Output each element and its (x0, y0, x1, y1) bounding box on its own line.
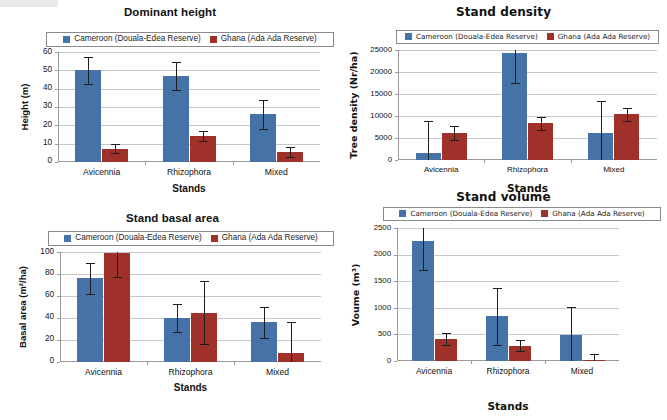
legend-entry-ghana[interactable]: Ghana (Ada Ada Reserve) (541, 210, 644, 217)
error-bar-cap-bottom (173, 332, 182, 333)
chart-legend-stand-density[interactable]: Cameroon (Douala-Edea Reserve)Ghana (Ada… (396, 30, 659, 44)
y-axis (397, 228, 398, 361)
legend-label-ghana: Ghana (Ada Ada Reserve) (221, 35, 317, 43)
x-tick-label: Rhizophora (147, 368, 234, 377)
error-bar (497, 288, 498, 345)
gridline (398, 50, 657, 51)
chart-legend-stand-volume[interactable]: Cameroon (Douala-Edea Reserve)Ghana (Ada… (383, 207, 661, 221)
error-bar (571, 307, 572, 361)
x-tick-label: Mixed (233, 168, 320, 177)
legend-entry-cameroon[interactable]: Cameroon (Douala-Edea Reserve) (399, 210, 532, 217)
legend-label-ghana: Ghana (Ada Ada Reserve) (222, 234, 318, 242)
legend-swatch-ghana (541, 210, 548, 217)
x-tick-mark (545, 361, 546, 364)
error-bar-cap-bottom (259, 129, 268, 130)
y-tick-label: 10 (0, 139, 52, 147)
chart-legend-stand-basal-area[interactable]: Cameroon (Douala-Edea Reserve)Ghana (Ada… (48, 231, 334, 246)
error-bar (594, 354, 595, 361)
error-bar-cap-bottom (172, 90, 181, 91)
y-tick-label: 500 (331, 330, 391, 338)
error-bar (115, 144, 116, 153)
error-bar-cap-top (623, 108, 632, 109)
error-bar (541, 117, 542, 130)
y-tick-label: 25000 (332, 46, 392, 54)
x-tick-mark (145, 162, 146, 165)
error-bar-cap-bottom (86, 294, 95, 295)
error-bar-cap-top (199, 131, 208, 132)
x-tick-label: Avicennia (60, 368, 147, 377)
error-bar-cap-bottom (511, 83, 520, 84)
error-bar (177, 304, 178, 333)
error-bar-cap-bottom (493, 345, 502, 346)
legend-entry-ghana[interactable]: Ghana (Ada Ada Reserve) (210, 35, 317, 43)
y-tick-label: 0 (0, 157, 52, 165)
legend-label-cameroon: Cameroon (Douala-Edea Reserve) (416, 33, 538, 40)
error-bar-cap-top (86, 263, 95, 264)
x-tick-label: Avicennia (398, 166, 484, 174)
plot-area-stand-density: 0500010000150002000025000AvicenniaRhizop… (398, 50, 657, 160)
y-tick-label: 10000 (332, 112, 392, 120)
y-tick-label: 15000 (332, 90, 392, 98)
y-axis-label-stand-basal-area: Basal area (m²/ha) (17, 266, 28, 348)
error-bar-cap-top (260, 307, 269, 308)
error-bar (454, 126, 455, 140)
chart-title-stand-density: Stand density (340, 5, 667, 19)
y-tick-label: 0 (0, 357, 54, 365)
error-bar (627, 108, 628, 121)
chart-panel-stand-density: Stand densityCameroon (Douala-Edea Reser… (340, 0, 667, 200)
y-tick-label: 2500 (331, 224, 391, 232)
y-axis-label-dominant-height: Height (m) (19, 84, 30, 131)
legend-label-cameroon: Cameroon (Douala-Edea Reserve) (74, 35, 201, 43)
plot-area-stand-volume: 05001000150020002500AvicenniaRhizophoraM… (397, 228, 619, 361)
x-tick-mark (234, 362, 235, 365)
legend-entry-cameroon[interactable]: Cameroon (Douala-Edea Reserve) (63, 35, 201, 43)
y-tick-mark (395, 160, 398, 161)
error-bar-cap-bottom (199, 141, 208, 142)
error-bar-cap-top (442, 333, 451, 334)
legend-entry-cameroon[interactable]: Cameroon (Douala-Edea Reserve) (405, 33, 538, 40)
x-tick-label: Rhizophora (471, 367, 545, 375)
x-tick-label: Avicennia (397, 367, 471, 375)
error-bar (515, 50, 516, 83)
error-bar (290, 147, 291, 157)
x-axis-label-stand-basal-area: Stands (60, 382, 321, 393)
legend-entry-ghana[interactable]: Ghana (Ada Ada Reserve) (547, 33, 650, 40)
y-tick-label: 5000 (332, 134, 392, 142)
error-bar-cap-bottom (200, 344, 209, 345)
error-bar-cap-bottom (516, 351, 525, 352)
error-bar-cap-bottom (419, 270, 428, 271)
legend-swatch-cameroon (64, 235, 71, 242)
error-bar (90, 263, 91, 294)
gridline (58, 52, 320, 53)
chart-panel-stand-basal-area: Stand basal areaCameroon (Douala-Edea Re… (0, 205, 345, 420)
x-tick-label: Rhizophora (145, 168, 232, 177)
x-tick-mark (233, 162, 234, 165)
error-bar (263, 100, 264, 129)
chart-title-dominant-height: Dominant height (0, 6, 340, 18)
chart-panel-stand-volume: Stand volumeCameroon (Douala-Edea Reserv… (340, 185, 667, 420)
x-tick-mark (571, 160, 572, 163)
error-bar (601, 101, 602, 160)
error-bar (117, 252, 118, 277)
error-bar-cap-bottom (442, 345, 451, 346)
error-bar (203, 131, 204, 141)
legend-swatch-cameroon (399, 210, 406, 217)
y-tick-mark (394, 361, 397, 362)
legend-entry-cameroon[interactable]: Cameroon (Douala-Edea Reserve) (64, 234, 202, 242)
error-bar-cap-top (173, 304, 182, 305)
error-bar-cap-bottom (260, 338, 269, 339)
x-tick-mark (471, 361, 472, 364)
error-bar-cap-bottom (450, 140, 459, 141)
error-bar (520, 340, 521, 351)
gridline (398, 72, 657, 73)
error-bar-cap-top (286, 147, 295, 148)
chart-legend-dominant-height[interactable]: Cameroon (Douala-Edea Reserve)Ghana (Ada… (46, 32, 334, 47)
x-tick-label: Mixed (571, 166, 657, 174)
legend-entry-ghana[interactable]: Ghana (Ada Ada Reserve) (211, 234, 318, 242)
x-axis-label-stand-volume: Stands (397, 400, 619, 412)
y-axis-label-stand-density: Tree density (Nr/ha) (348, 51, 359, 158)
x-tick-mark (484, 160, 485, 163)
x-tick-mark (147, 362, 148, 365)
error-bar (446, 333, 447, 345)
legend-label-ghana: Ghana (Ada Ada Reserve) (552, 210, 644, 217)
